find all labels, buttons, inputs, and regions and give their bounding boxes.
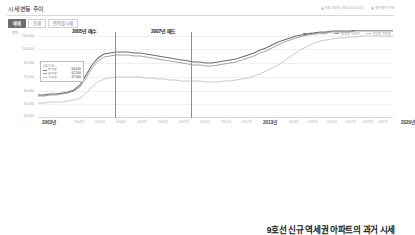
chart-tooltip: 2007.06 흑석동 64,000 염창동 62,500 가양동 47,000 — [40, 61, 84, 82]
x-tick-2003: 2003년 — [42, 119, 56, 125]
page-title: 시세변동 추이 — [8, 4, 44, 13]
annotation-label-sell: 2007년 매도 — [151, 27, 176, 34]
x-tick-2006: 2006년 — [116, 119, 126, 124]
series-line-1 — [38, 31, 393, 96]
chart-tabs: 매매 전세 면적별시세 — [8, 19, 78, 28]
x-tick-2013: 2013년 — [263, 119, 277, 125]
y-tick-2: 90,000 — [10, 61, 34, 65]
x-tick-2016: 2016년 — [327, 119, 337, 124]
y-tick-0: 130,000 — [10, 34, 34, 38]
x-tick-2010: 2010년 — [200, 119, 210, 124]
y-tick-5: 30,000 — [10, 102, 34, 106]
card-meta: KB 부동산 시세 (2020-01) 실거래가 단위 — [321, 5, 394, 10]
x-tick-2017: 2017년 — [346, 119, 356, 124]
tab-매매[interactable]: 매매 — [8, 19, 26, 28]
tooltip-series-name: 가양동 — [48, 76, 71, 80]
x-tick-2015: 2015년 — [308, 119, 318, 124]
bullet-icon — [321, 7, 324, 10]
x-tick-2008: 2008년 — [158, 119, 168, 124]
x-tick-2004: 2004년 — [74, 119, 84, 124]
x-tick-2014: 2014년 — [289, 119, 299, 124]
tooltip-swatch-icon — [43, 77, 47, 78]
x-tick-2009: 2009년 — [179, 119, 189, 124]
tooltip-row: 가양동 47,000 — [43, 76, 81, 80]
series-line-0 — [38, 30, 393, 95]
tooltip-series-value: 47,000 — [72, 76, 81, 80]
y-tick-1: 110,000 — [10, 47, 34, 51]
y-tick-4: 50,000 — [10, 89, 34, 93]
tab-전세[interactable]: 전세 — [28, 19, 46, 28]
header-divider — [7, 15, 394, 16]
x-tick-2012: 2012년 — [242, 119, 252, 124]
x-tick-2011: 2011년 — [221, 119, 231, 124]
annotation-line-sell — [191, 32, 192, 118]
tooltip-swatch-icon — [43, 73, 47, 74]
y-tick-3: 70,000 — [10, 75, 34, 79]
y-tick-6: 10,000 — [10, 114, 34, 118]
annotation-label-buy: 2005년 매수 — [72, 27, 97, 34]
figure-caption: 9호선 신규 역세권 아파트의 과거 시세 — [267, 223, 395, 235]
price-trend-card: 시세변동 추이 KB 부동산 시세 (2020-01) 실거래가 단위 매매 전… — [4, 3, 397, 129]
annotation-line-buy — [115, 32, 116, 118]
meta-source: KB 부동산 시세 (2020-01) — [321, 5, 364, 10]
y-axis: 130,000 110,000 90,000 70,000 50,000 30,… — [8, 30, 38, 118]
x-tick-2020: 2020년 — [401, 119, 415, 125]
meta-unit: 실거래가 단위 — [371, 5, 395, 10]
x-tick-2007: 2007년 — [137, 119, 147, 124]
chart-series-paths — [38, 30, 393, 118]
x-tick-2005: 2005년 — [95, 119, 105, 124]
bullet-icon — [371, 7, 374, 10]
x-tick-2018: 2018년 — [363, 119, 373, 124]
chart-plot-area: 만원 흑석동 아파트 염창동 아파트 가양동 아파트 130,000 110,0… — [8, 30, 393, 125]
x-axis: 2003년 2004년 2005년 2006년 2007년 2008년 2009… — [38, 119, 393, 127]
x-tick-2019: 2019년 — [378, 119, 388, 124]
tooltip-swatch-icon — [43, 70, 47, 71]
